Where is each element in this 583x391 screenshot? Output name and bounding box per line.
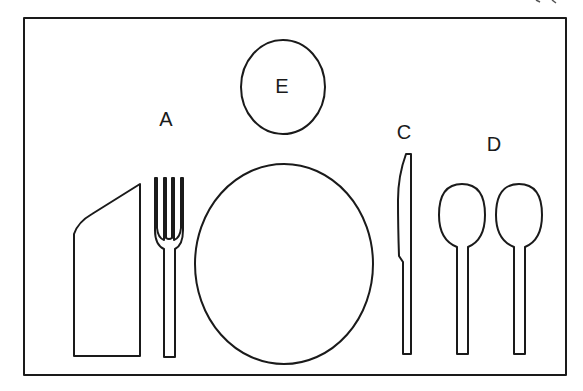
cropped-mark (536, 0, 556, 3)
label-knife: C (397, 121, 411, 143)
knife-icon (398, 154, 411, 354)
napkin-icon (74, 184, 140, 356)
placemat-frame (24, 18, 566, 375)
dinner-plate-icon (195, 164, 373, 364)
label-spoons: D (487, 133, 501, 155)
spoon-right-icon (496, 184, 542, 354)
label-bread-plate: E (275, 75, 288, 97)
spoon-left-icon (439, 184, 485, 354)
label-fork: A (159, 108, 173, 130)
place-setting-diagram: A E C D (0, 0, 583, 391)
fork-icon (155, 178, 183, 357)
